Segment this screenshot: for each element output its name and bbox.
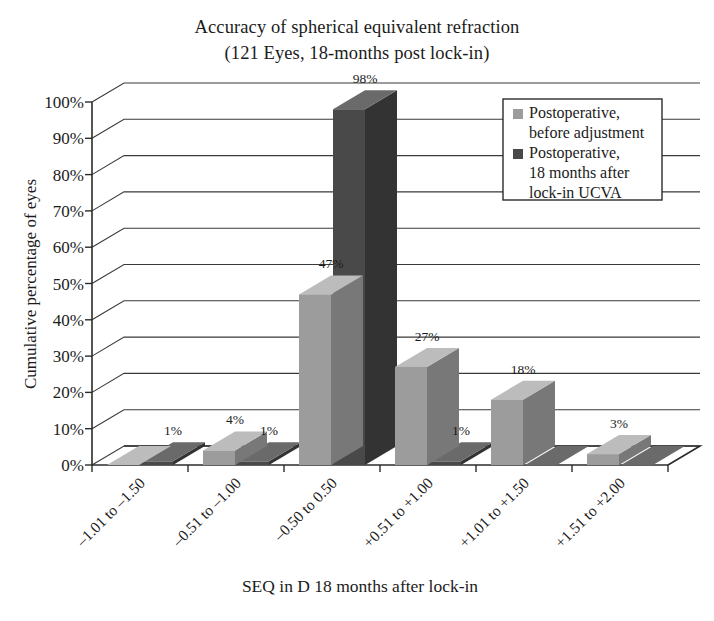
data-label-light-2: 47%	[319, 256, 344, 271]
x-axis-tick-label-4: +1.01 to +1.50	[455, 474, 532, 551]
x-axis-tick-label-3: +0.51 to +1.00	[359, 474, 436, 551]
legend-label-1-line-1: 18 months after	[529, 164, 630, 181]
chart-container: Accuracy of spherical equivalent refract…	[0, 0, 714, 621]
x-axis-tick-label-1: –0.51 to –1.00	[168, 474, 244, 550]
bar-front-face	[491, 400, 523, 465]
x-axis-tick-label-5: +1.51 to +2.00	[551, 474, 628, 551]
data-label-dark-2: 98%	[353, 71, 378, 86]
bar-light-3	[395, 348, 459, 465]
legend-label-1-line-0: Postoperative,	[529, 144, 620, 162]
legend-swatch-1	[513, 149, 523, 159]
y-axis-tick-label: 80%	[53, 166, 84, 185]
data-label-dark-3: 1%	[452, 423, 470, 438]
bar-side-face	[331, 275, 363, 465]
bar-front-face	[299, 294, 331, 465]
data-label-light-3: 27%	[415, 329, 440, 344]
y-axis-tick-label: 100%	[44, 93, 84, 112]
legend-label-0-line-1: before adjustment	[529, 124, 645, 142]
y-axis-tick-label: 0%	[61, 456, 84, 475]
data-label-light-1: 4%	[226, 412, 244, 427]
y-axis-tick-label: 10%	[53, 420, 84, 439]
y-axis-tick-label: 20%	[53, 383, 84, 402]
x-axis-ticks-group: –1.01 to –1.50–0.51 to –1.00–0.50 to 0.5…	[72, 465, 668, 551]
data-label-dark-1: 1%	[260, 423, 278, 438]
y-axis-tick-label: 60%	[53, 238, 84, 257]
x-axis-tick-label-0: –1.01 to –1.50	[72, 474, 148, 550]
y-axis-tick-label: 30%	[53, 347, 84, 366]
data-label-light-4: 18%	[511, 362, 536, 377]
y-axis-tick-label: 90%	[53, 129, 84, 148]
bar-front-face	[203, 450, 235, 465]
bar-side-face	[427, 348, 459, 465]
y-axis-title: Cumulative percentage of eyes	[21, 179, 40, 389]
bar-light-4	[491, 381, 555, 465]
legend-label-1-line-2: lock-in UCVA	[529, 184, 622, 201]
bar-front-face	[141, 461, 173, 465]
y-axis-tick-label: 40%	[53, 311, 84, 330]
x-axis-tick-label-2: –0.50 to 0.50	[270, 474, 341, 545]
y-axis-tick-label: 70%	[53, 202, 84, 221]
bar-front-face	[587, 454, 619, 465]
bar-front-face	[429, 461, 461, 465]
bar-front-face	[395, 367, 427, 465]
bar-light-2	[299, 275, 363, 465]
bar-side-face	[365, 90, 397, 465]
y-axis-ticks-group: 0%10%20%30%40%50%60%70%80%90%100%	[44, 93, 92, 475]
y-axis-tick-label: 50%	[53, 275, 84, 294]
chart-plot-area: 0%10%20%30%40%50%60%70%80%90%100% 1%4%1%…	[0, 0, 714, 621]
x-axis-title: SEQ in D 18 months after lock-in	[242, 576, 478, 596]
legend-swatch-0	[513, 109, 523, 119]
chart-legend: Postoperative,before adjustmentPostopera…	[503, 99, 662, 201]
bar-front-face	[237, 461, 269, 465]
data-label-light-5: 3%	[610, 416, 628, 431]
legend-label-0-line-0: Postoperative,	[529, 104, 620, 122]
data-label-dark-0: 1%	[164, 423, 182, 438]
